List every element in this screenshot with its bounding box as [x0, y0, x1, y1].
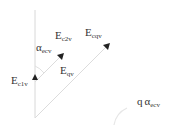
diagonal-eqv-line: [35, 46, 107, 118]
label-q-alpha-ecv: qαecv: [137, 95, 160, 109]
label-ec2v: Ec2v: [55, 29, 72, 43]
label-ecqv: Ecqv: [85, 26, 102, 40]
q-alpha-arc: [114, 108, 127, 125]
vector-diagram: Ec2v Ecqv αecv Ec1v Eqv qαecv: [0, 0, 178, 140]
label-ec1v: Ec1v: [11, 74, 28, 88]
diagonal-ec2v-line: [35, 56, 61, 82]
label-eqv: Eqv: [60, 64, 74, 78]
arrow-ec1v-icon: [32, 74, 38, 80]
label-alpha-ecv: αecv: [36, 41, 52, 55]
angle-arc: [35, 66, 44, 73]
